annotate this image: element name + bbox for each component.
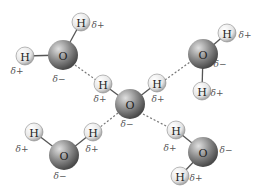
partial-positive-label: δ+ bbox=[92, 20, 105, 30]
hydrogen-atom: H bbox=[94, 75, 112, 93]
oxygen-atom: O bbox=[49, 140, 79, 170]
oxygen-atom: O bbox=[188, 137, 218, 167]
water-hbond-diagram: OHHOHHOHHOHHOHH δ+δ+δ−δ+δ+δ−δ+δ+δ−δ+δ+δ−… bbox=[0, 0, 257, 195]
partial-positive-label: δ+ bbox=[211, 88, 224, 98]
hydrogen-symbol: H bbox=[76, 17, 86, 30]
hydrogen-symbol: H bbox=[197, 86, 207, 99]
hydrogen-symbol: H bbox=[222, 28, 232, 41]
hydrogen-atom: H bbox=[193, 82, 211, 100]
partial-negative-label: δ− bbox=[214, 59, 227, 69]
hydrogen-symbol: H bbox=[98, 79, 108, 92]
partial-negative-label: δ− bbox=[121, 119, 134, 129]
hydrogen-bond bbox=[99, 113, 118, 128]
partial-positive-label: δ+ bbox=[94, 94, 107, 104]
hydrogen-bond bbox=[143, 114, 168, 127]
oxygen-atom: O bbox=[48, 40, 78, 70]
hydrogen-atom: H bbox=[84, 123, 102, 141]
hydrogen-symbol: H bbox=[88, 127, 98, 140]
partial-positive-label: δ+ bbox=[152, 94, 165, 104]
hydrogen-symbol: H bbox=[152, 78, 162, 91]
partial-positive-label: δ+ bbox=[16, 144, 29, 154]
hydrogen-atom: H bbox=[72, 13, 90, 31]
hydrogen-atom: H bbox=[171, 167, 189, 185]
partial-positive-label: δ+ bbox=[164, 143, 177, 153]
oxygen-symbol: O bbox=[198, 49, 207, 62]
hydrogen-bond bbox=[75, 65, 96, 80]
oxygen-symbol: O bbox=[125, 99, 134, 112]
hydrogen-atom: H bbox=[167, 121, 185, 139]
oxygen-atom: O bbox=[115, 89, 145, 119]
hydrogen-symbol: H bbox=[175, 171, 185, 184]
hydrogen-atom: H bbox=[25, 123, 43, 141]
hydrogen-atom: H bbox=[218, 24, 236, 42]
partial-positive-label: δ+ bbox=[190, 173, 203, 183]
partial-positive-label: δ+ bbox=[86, 144, 99, 154]
hydrogen-atom: H bbox=[16, 47, 34, 65]
oxygen-symbol: O bbox=[58, 50, 67, 63]
hydrogen-symbol: H bbox=[29, 127, 39, 140]
hydrogen-symbol: H bbox=[171, 125, 181, 138]
hydrogen-bond bbox=[165, 62, 190, 80]
partial-positive-label: δ+ bbox=[239, 30, 252, 40]
atoms: OHHOHHOHHOHHOHH bbox=[16, 13, 236, 185]
hydrogen-atom: H bbox=[148, 74, 166, 92]
partial-positive-label: δ+ bbox=[11, 66, 24, 76]
partial-negative-label: δ− bbox=[220, 145, 233, 155]
partial-negative-label: δ− bbox=[54, 171, 67, 181]
oxygen-symbol: O bbox=[59, 150, 68, 163]
hydrogen-symbol: H bbox=[20, 51, 30, 64]
partial-negative-label: δ− bbox=[53, 74, 66, 84]
oxygen-symbol: O bbox=[198, 147, 207, 160]
